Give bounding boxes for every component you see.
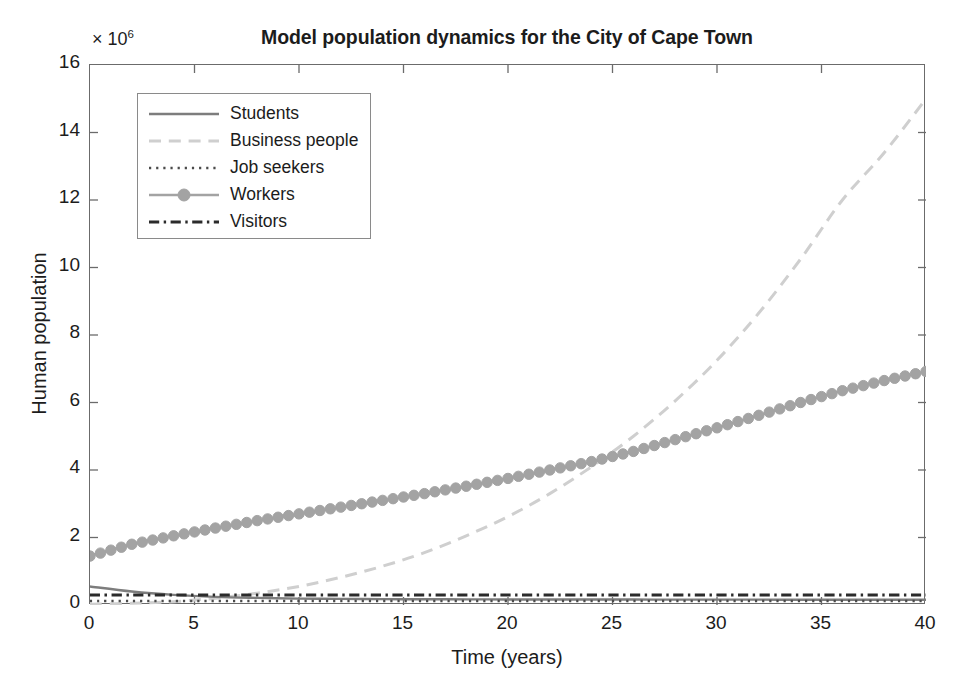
series-marker [827,388,837,398]
series-marker [242,517,252,527]
series-marker [680,431,690,441]
series-marker [869,378,879,388]
series-marker [639,443,649,453]
series-marker [471,479,481,489]
series-marker [879,375,889,385]
series-marker [848,383,858,393]
series-marker [837,385,847,395]
series-marker [336,502,346,512]
series-marker [200,525,210,535]
series-marker [294,509,304,519]
y-tick-label: 16 [24,51,80,73]
legend-item-business-people[interactable]: Business people [138,127,370,154]
legend-line-sample [147,157,221,179]
x-tick-label: 10 [268,612,328,634]
legend-line-sample [147,211,221,233]
series-marker [513,471,523,481]
legend-item-visitors[interactable]: Visitors [138,208,370,235]
series-marker [127,539,137,549]
series-marker [492,475,502,485]
legend-line-sample [147,103,221,125]
series-marker [179,529,189,539]
series-marker [555,463,565,473]
series-marker [106,545,116,555]
series-marker [325,504,335,514]
legend-item-students[interactable]: Students [138,100,370,127]
series-marker [283,510,293,520]
series-marker [910,369,920,379]
legend-item-label: Business people [230,132,358,150]
x-tick-label: 25 [582,612,642,634]
series-marker [95,548,105,558]
x-tick-label: 0 [59,612,119,634]
legend-item-label: Job seekers [230,159,324,177]
series-marker [545,465,555,475]
legend-line-sample [147,184,221,206]
series-marker [440,485,450,495]
series-marker [586,456,596,466]
series-marker [116,542,126,552]
series-marker [210,523,220,533]
series-marker [398,492,408,502]
series-marker [252,515,262,525]
legend-line-sample [147,130,221,152]
x-tick-label: 40 [895,612,955,634]
series-marker [743,413,753,423]
series-marker [419,488,429,498]
legend-item-job-seekers[interactable]: Job seekers [138,154,370,181]
x-tick-label: 5 [164,612,224,634]
series-marker [858,380,868,390]
series-marker [670,434,680,444]
series-marker [733,416,743,426]
series-marker [795,397,805,407]
chart-title: Model population dynamics for the City o… [89,26,925,49]
series-marker [461,481,471,491]
series-marker [649,440,659,450]
series-workers [90,366,926,561]
legend-item-label: Workers [230,186,295,204]
series-marker [273,512,283,522]
series-marker [377,495,387,505]
y-tick-label: 0 [24,591,80,613]
series-marker [921,366,926,376]
series-marker [754,410,764,420]
y-tick-label: 4 [24,456,80,478]
series-marker [137,537,147,547]
legend-marker [178,189,190,201]
series-marker [262,514,272,524]
series-marker [304,507,314,517]
series-marker [482,477,492,487]
x-tick-label: 30 [686,612,746,634]
series-marker [889,373,899,383]
x-axis-title: Time (years) [89,646,925,669]
series-marker [221,521,231,531]
series-marker [148,535,158,545]
series-marker [315,505,325,515]
series-marker [367,497,377,507]
y-axis-exponent-label: × 106 [92,28,134,50]
series-marker [189,527,199,537]
y-exponent-power: 6 [128,28,134,40]
series-marker [168,531,178,541]
series-marker [806,394,816,404]
series-marker [90,551,95,561]
series-marker [409,490,419,500]
y-tick-label: 12 [24,186,80,208]
legend-item-label: Students [230,105,299,123]
legend-item-workers[interactable]: Workers [138,181,370,208]
y-tick-label: 14 [24,119,80,141]
series-marker [576,458,586,468]
series-marker [785,401,795,411]
y-tick-label: 6 [24,389,80,411]
series-marker [691,429,701,439]
series-marker [388,493,398,503]
series-marker [816,391,826,401]
series-marker [775,404,785,414]
y-exponent-base: × 10 [92,29,128,49]
series-marker [566,461,576,471]
series-marker [346,500,356,510]
series-marker [701,426,711,436]
series-marker [764,407,774,417]
series-marker [451,483,461,493]
series-marker [722,419,732,429]
